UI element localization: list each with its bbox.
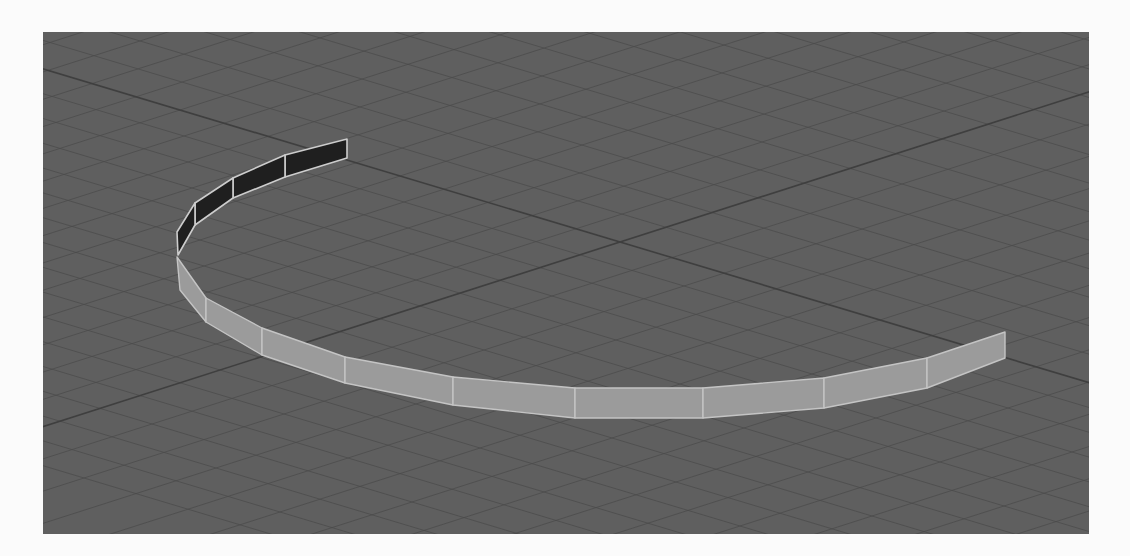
grid-line [43, 32, 1089, 532]
strip-face-front[interactable] [262, 328, 345, 383]
strip-face-front[interactable] [927, 332, 1005, 388]
strip-face-front[interactable] [206, 298, 262, 355]
strip-face-front[interactable] [575, 388, 703, 418]
floor-grid [43, 32, 1089, 534]
grid-line [43, 32, 1089, 505]
grid-line [43, 32, 1089, 492]
grid-line [43, 32, 1089, 500]
viewport-scene[interactable] [43, 32, 1089, 534]
grid-line [43, 32, 1089, 534]
grid-line [43, 32, 1089, 530]
strip-face-front[interactable] [453, 377, 575, 418]
strip-face-front[interactable] [703, 378, 824, 418]
strip-face-back[interactable] [233, 155, 285, 198]
grid-line [43, 32, 1089, 515]
strip-face-front[interactable] [345, 357, 453, 405]
3d-viewport[interactable] [43, 32, 1089, 534]
strip-back-faces[interactable] [177, 139, 347, 255]
